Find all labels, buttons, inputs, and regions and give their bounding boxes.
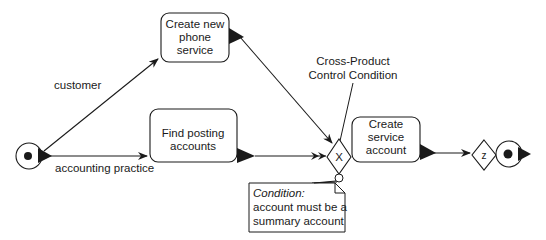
decision-z[interactable]: z: [472, 140, 496, 170]
activity-diagram: customer accounting practice Create new …: [0, 0, 546, 240]
activity-label-line: service: [368, 131, 404, 143]
note-line: account must be a: [253, 201, 348, 213]
output-triangle: [420, 144, 436, 160]
decision-symbol: X: [335, 151, 343, 163]
activity-label-line: Create: [369, 118, 404, 130]
activity-label-line: Create new: [166, 18, 226, 30]
start-dot: [24, 152, 32, 160]
end-triangle: [518, 147, 531, 161]
gate-label-line: Control Condition: [309, 69, 398, 81]
edge-phone-to-gate: [240, 37, 332, 143]
edge-customer: [44, 59, 158, 151]
end-node[interactable]: [496, 141, 531, 167]
activity-create-phone-service[interactable]: Create new phone service: [161, 13, 244, 62]
output-triangle: [229, 28, 244, 44]
activity-label-line: account: [366, 144, 407, 156]
decision-cross-product[interactable]: X: [327, 139, 351, 182]
gate-label-leader: [340, 83, 353, 141]
condition-port-circle: [335, 174, 343, 182]
note-title: Condition:: [253, 187, 305, 199]
start-node[interactable]: [16, 143, 52, 169]
note-line: summary account: [253, 215, 345, 227]
activity-label-line: Find posting: [162, 127, 225, 139]
edge-label-customer: customer: [54, 79, 101, 91]
activity-label-line: phone: [179, 31, 211, 43]
decision-symbol: z: [482, 150, 487, 161]
output-triangle: [237, 148, 255, 163]
gate-label-line: Cross-Product: [316, 55, 390, 67]
edge-label-accounting-practice: accounting practice: [55, 162, 154, 174]
activity-label-line: accounts: [170, 140, 216, 152]
gate-label: Cross-Product Control Condition: [309, 55, 398, 81]
activity-create-service-account[interactable]: Create service account: [352, 117, 436, 162]
activity-label-line: service: [177, 44, 213, 56]
activity-find-posting-accounts[interactable]: Find posting accounts: [150, 109, 255, 163]
end-dot: [504, 150, 513, 159]
condition-note: Condition: account must be a summary acc…: [249, 183, 348, 232]
